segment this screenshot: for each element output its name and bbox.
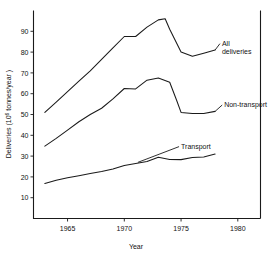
y-axis-tick-labels: 102030405060708090 [21, 28, 29, 201]
series-label-non-transport: Non-transport [224, 101, 267, 109]
x-tick-label: 1970 [117, 225, 133, 232]
y-tick-label: 50 [21, 111, 29, 118]
y-tick-label: 10 [21, 194, 29, 201]
series-label-line: deliveries [222, 48, 252, 55]
series-label-transport: Transport [181, 143, 211, 151]
y-tick-label: 70 [21, 70, 29, 77]
deliveries-line-chart: 102030405060708090 1965197019751980 Alld… [0, 0, 272, 253]
chart-container: 102030405060708090 1965197019751980 Alld… [0, 0, 272, 253]
chart-background [0, 0, 272, 253]
x-axis-title: Year [129, 243, 144, 250]
series-label-line: Non-transport [224, 101, 267, 109]
y-tick-label: 60 [21, 90, 29, 97]
y-axis-title-suffix: tonnes/year ) [5, 70, 13, 113]
y-axis-title-prefix: Deliveries (10 [5, 115, 13, 158]
y-tick-label: 30 [21, 153, 29, 160]
x-tick-label: 1965 [60, 225, 76, 232]
x-tick-label: 1980 [230, 225, 246, 232]
series-label-line: Transport [181, 143, 211, 151]
y-tick-label: 40 [21, 132, 29, 139]
y-tick-label: 80 [21, 49, 29, 56]
series-label-line: All [222, 40, 230, 47]
x-tick-label: 1975 [173, 225, 189, 232]
y-tick-label: 90 [21, 28, 29, 35]
y-tick-label: 20 [21, 174, 29, 181]
